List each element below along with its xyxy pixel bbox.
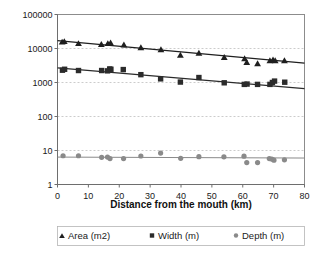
trendline [58,41,305,64]
data-point-square [121,67,126,72]
data-point-square [282,80,287,85]
data-point-circle [221,154,226,159]
y-tick-label: 10 [42,146,52,156]
data-point-square [255,82,260,87]
y-tick-label: 1000 [32,78,52,88]
data-point-square [196,75,201,80]
data-point-circle [255,160,260,165]
data-point-circle [196,154,201,159]
data-point-square [222,80,227,85]
data-point-square [108,67,113,72]
x-axis [58,185,305,188]
data-point-triangle [254,60,261,66]
data-point-circle [241,154,246,159]
data-point-triangle [120,41,127,47]
x-tick-label: 70 [269,191,279,201]
data-point-square [99,68,104,73]
y-axis-tick-labels: 110100100010000100000 [22,10,52,190]
x-tick-label: 80 [299,191,309,201]
data-point-circle [76,153,81,158]
data-point-square [76,68,81,73]
data-point-circle [60,153,65,158]
x-tick-label: 10 [83,191,93,201]
data-point-square [272,78,277,83]
circle-marker [234,233,238,237]
series-width-m [58,66,305,88]
data-point-circle [107,156,112,161]
data-point-square [158,76,163,81]
data-point-circle [282,157,287,162]
square-marker [150,233,154,237]
series-area-m2 [58,38,305,66]
data-point-triangle [281,57,288,63]
data-point-triangle [137,44,144,50]
y-tick-label: 10000 [27,44,52,54]
data-point-square [62,67,67,72]
legend-label: Area (m2) [68,230,110,241]
legend-label: Depth (m) [242,230,284,241]
data-point-square [178,79,183,84]
data-point-square [138,72,143,77]
y-tick-label: 100 [37,112,52,122]
legend-label: Width (m) [158,230,199,241]
data-point-circle [99,155,104,160]
x-tick-label: 0 [55,191,60,201]
y-tick-label: 100000 [22,10,52,20]
data-point-circle [158,150,163,155]
series-group [58,38,305,165]
x-axis-title: Distance from the mouth (km) [110,199,252,210]
chart-container: 110100100010000100000 01020304050607080 … [0,0,327,259]
data-point-circle [271,158,276,163]
chart-svg: 110100100010000100000 01020304050607080 … [0,0,327,259]
legend-item-depth-m[interactable]: Depth (m) [234,230,284,241]
legend: Area (m2)Width (m)Depth (m) [58,227,305,246]
data-point-circle [138,153,143,158]
data-point-circle [244,160,249,165]
y-tick-label: 1 [47,180,52,190]
data-point-triangle [221,54,228,60]
legend-item-width-m[interactable]: Width (m) [150,230,199,241]
data-point-circle [178,156,183,161]
y-axis [55,15,58,185]
series-depth-m [58,150,305,165]
data-point-square [244,81,249,86]
data-point-circle [121,156,126,161]
